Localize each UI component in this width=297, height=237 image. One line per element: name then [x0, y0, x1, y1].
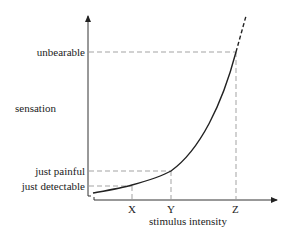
diagram-canvas	[0, 0, 297, 237]
x-point-label-z: Z	[232, 204, 239, 215]
x-point-label-y: Y	[167, 204, 175, 215]
sensation-curve	[93, 52, 236, 193]
curve-extrapolation	[236, 16, 246, 52]
level-label-unbearable: unbearable	[37, 47, 85, 58]
x-axis-label: stimulus intensity	[149, 216, 227, 227]
level-label-just-detectable: just detectable	[22, 181, 85, 192]
level-label-just-painful: just painful	[35, 166, 85, 177]
x-point-label-x: X	[128, 204, 136, 215]
y-axis-label: sensation	[15, 103, 56, 114]
guide-lines	[89, 52, 236, 200]
